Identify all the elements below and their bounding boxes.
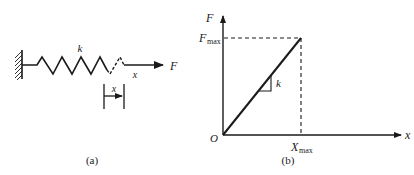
xmax-label: X — [290, 140, 299, 154]
displacement-label: x — [132, 69, 138, 80]
y-axis-label: F — [205, 11, 214, 25]
bracket-displacement-label: x — [111, 83, 117, 94]
spring-coil — [22, 57, 107, 74]
caption-b: (b) — [282, 154, 295, 167]
caption-a: (a) — [86, 154, 99, 167]
force-displacement-line — [223, 38, 301, 135]
fixed-wall-icon — [15, 50, 22, 80]
figure-b-force-displacement-graph: k F x O F max X max (b) — [198, 11, 411, 167]
spring-extension-dashed — [107, 57, 124, 74]
xmax-subscript: max — [299, 146, 313, 155]
figure-a-spring-diagram: k F x x (a) — [15, 42, 178, 167]
x-axis-label: x — [404, 128, 411, 142]
origin-label: O — [210, 132, 218, 144]
force-label: F — [169, 59, 178, 73]
slope-label: k — [276, 77, 282, 89]
figure-canvas: k F x x (a) k F x O F max X max — [0, 0, 414, 175]
fmax-label: F — [198, 31, 207, 45]
fmax-subscript: max — [207, 37, 221, 46]
spring-constant-label: k — [78, 42, 84, 54]
